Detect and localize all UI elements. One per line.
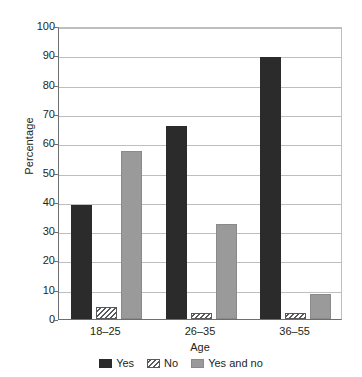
gridline [59, 28, 341, 29]
legend-label: Yes [116, 358, 134, 369]
y-tick-label: 20 [9, 255, 55, 266]
plot-area [58, 27, 342, 320]
gridline [59, 57, 341, 58]
gridline [59, 116, 341, 117]
y-tick-label: 10 [9, 285, 55, 296]
legend-item[interactable]: Yes and no [191, 358, 263, 369]
legend-item[interactable]: No [147, 358, 178, 369]
y-tick-label: 90 [9, 50, 55, 61]
x-tick-label: 36–55 [250, 325, 340, 337]
bar [260, 57, 281, 319]
y-tick-label: 50 [9, 168, 55, 179]
gridline [59, 204, 341, 205]
bar [166, 126, 187, 319]
gridline [59, 87, 341, 88]
bar [191, 313, 212, 319]
y-tick-label: 30 [9, 226, 55, 237]
legend-swatch-icon [99, 359, 112, 368]
gridline [59, 145, 341, 146]
legend-label: No [164, 358, 178, 369]
x-tick-label: 18–25 [60, 325, 150, 337]
bar [121, 151, 142, 319]
y-tick-label: 80 [9, 80, 55, 91]
gridline [59, 175, 341, 176]
y-tick-label: 100 [9, 21, 55, 32]
legend-swatch-icon [191, 359, 204, 368]
y-tick-label: 0 [9, 314, 55, 325]
y-tick-label: 60 [9, 138, 55, 149]
bar-chart: Percentage 0102030405060708090100 18–252… [0, 0, 362, 377]
bar [285, 313, 306, 319]
y-tick-label: 40 [9, 197, 55, 208]
gridline [59, 262, 341, 263]
legend: YesNoYes and no [0, 358, 362, 369]
bar [96, 307, 117, 319]
legend-label: Yes and no [208, 358, 263, 369]
bar [71, 205, 92, 319]
gridline [59, 292, 341, 293]
x-axis-title: Age [58, 341, 342, 353]
bar [310, 294, 331, 319]
gridline [59, 233, 341, 234]
legend-swatch-icon [147, 359, 160, 368]
x-tick-label: 26–35 [155, 325, 245, 337]
bar [216, 224, 237, 319]
legend-item[interactable]: Yes [99, 358, 134, 369]
y-tick-mark [53, 320, 58, 321]
y-tick-label: 70 [9, 109, 55, 120]
